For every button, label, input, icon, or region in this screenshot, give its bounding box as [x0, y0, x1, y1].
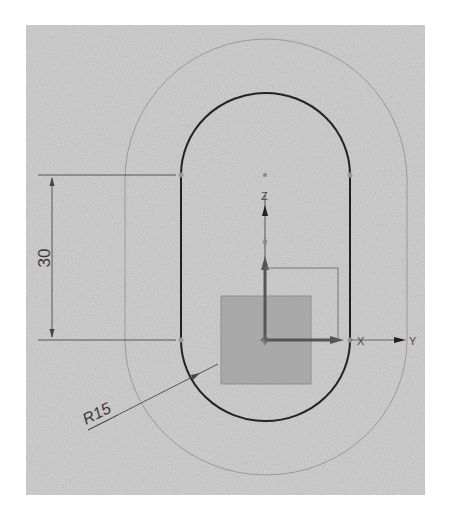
dimension-value-30[interactable]: 30: [35, 249, 54, 268]
slot-point-bottom-left[interactable]: [179, 338, 184, 343]
sketch-canvas[interactable]: 30 R15 Z Y X: [0, 0, 449, 525]
y-axis-label: Y: [409, 335, 417, 347]
slot-point-top-left[interactable]: [179, 173, 184, 178]
z-axis-label: Z: [261, 190, 268, 202]
z-axis-end-point: [263, 173, 267, 177]
x-axis-label: X: [357, 335, 365, 347]
slot-point-top-right[interactable]: [348, 173, 353, 178]
